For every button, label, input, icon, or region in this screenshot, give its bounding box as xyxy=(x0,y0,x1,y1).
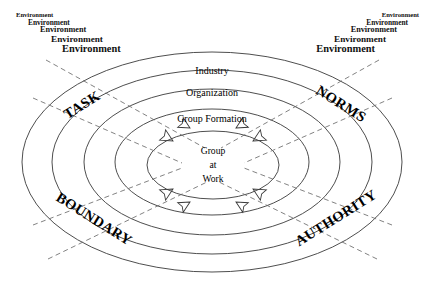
core-label-group-at-work: Group at Work xyxy=(201,144,226,187)
core-label-line: Group xyxy=(201,144,226,158)
environment-label: Environment xyxy=(316,44,419,55)
ring-label-industry: Industry xyxy=(195,65,228,76)
core-label-line: Work xyxy=(201,172,226,186)
dashed-line-norms-b xyxy=(244,98,392,163)
core-label-line: at xyxy=(201,158,226,172)
arrowhead-outer-lower-left xyxy=(178,197,193,212)
environment-label-stack-right: Environment Environment Environment Envi… xyxy=(316,12,419,55)
ring-label-group-formation: Group Formation xyxy=(177,113,247,124)
ring-label-organization: Organization xyxy=(186,87,238,98)
environment-label-stack-left: Environment Environment Environment Envi… xyxy=(16,12,121,55)
diagram-canvas: Environment Environment Environment Envi… xyxy=(0,0,425,284)
environment-label: Environment xyxy=(16,44,121,55)
arrowhead-outer-lower-right xyxy=(233,197,248,212)
dashed-line-task-b xyxy=(33,98,182,163)
dashed-line-authority-b xyxy=(219,182,377,259)
dashed-line-boundary-b xyxy=(48,182,207,259)
